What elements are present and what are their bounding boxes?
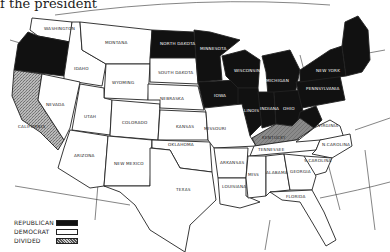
label-arkansas: ARKANSAS <box>220 160 244 165</box>
label-washington: WASHINGTON <box>44 26 75 31</box>
label-nevada: NEVADA <box>46 102 64 107</box>
label-kentucky: KENTUCKY <box>262 135 286 140</box>
label-nebraska: NEBRASKA <box>160 96 184 101</box>
label-new-mexico: NEW MEXICO <box>114 161 144 166</box>
label-georgia: GEORGIA <box>290 169 311 174</box>
label-wyoming: WYOMING <box>112 80 134 85</box>
label-ohio: OHIO <box>283 106 295 111</box>
state-mississippi <box>246 156 266 198</box>
label-illinois: ILLINOIS <box>240 108 259 113</box>
label-mississippi: MISS <box>248 172 259 177</box>
state-michigan <box>262 50 300 96</box>
label-north-dakota: NORTH DAKOTA <box>160 41 195 46</box>
label-louisiana: LOUISIANA <box>222 184 246 189</box>
legend-item-divided: DIVIDED <box>14 236 78 245</box>
label-michigan: MICHIGAN <box>266 78 289 83</box>
legend-swatch-divided <box>56 238 78 244</box>
label-idaho: IDAHO <box>74 66 89 71</box>
label-minnesota: MINNESOTA <box>200 46 227 51</box>
label-wisconsin: WISCONSIN <box>234 68 260 73</box>
legend-item-republican: REPUBLICAN <box>14 218 78 227</box>
label-arizona: ARIZONA <box>74 153 95 158</box>
label-kansas: KANSAS <box>176 124 194 129</box>
label-tennessee: TENNESSEE <box>257 147 285 152</box>
legend-swatch-democrat <box>56 229 78 235</box>
label-florida: FLORIDA <box>286 194 305 199</box>
label-colorado: COLORADO <box>122 120 148 125</box>
state-arizona <box>58 130 108 188</box>
label-montana: MONTANA <box>105 40 128 45</box>
label-california: CALIFORNIA <box>18 124 45 129</box>
label-virginia: VIRGINIA <box>318 123 338 128</box>
map-legend: REPUBLICAN DEMOCRAT DIVIDED <box>14 218 78 245</box>
legend-swatch-republican <box>56 220 78 226</box>
state-new-york <box>300 46 346 82</box>
us-election-map: WASHINGTON IDAHO MONTANA NORTH DAKOTA SO… <box>0 0 390 252</box>
label-utah: UTAH <box>84 114 96 119</box>
label-indiana: INDIANA <box>260 106 279 111</box>
label-alabama: ALABAMA <box>266 170 288 175</box>
label-s-carolina: S.CAROLINA <box>304 158 332 163</box>
legend-label: REPUBLICAN <box>14 219 56 226</box>
state-new-england <box>342 16 370 76</box>
label-new-york: NEW YORK <box>316 68 340 73</box>
legend-item-democrat: DEMOCRAT <box>14 227 78 236</box>
label-iowa: IOWA <box>214 93 226 98</box>
label-pennsylvania: PENNSYLVANIA <box>306 86 340 91</box>
label-oklahoma: OKLAHOMA <box>168 142 194 147</box>
legend-label: DIVIDED <box>14 237 56 244</box>
legend-label: DEMOCRAT <box>14 228 56 235</box>
label-texas: TEXAS <box>175 187 191 192</box>
label-missouri: MISSOURI <box>204 126 226 131</box>
label-south-dakota: SOUTH DAKOTA <box>158 70 193 75</box>
label-n-carolina: N.CAROLINA <box>322 142 350 147</box>
